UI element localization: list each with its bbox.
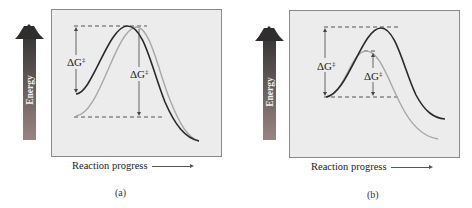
delta-g-label-b1: ΔG‡ — [317, 60, 336, 72]
caption-a: (a) — [115, 187, 126, 198]
progress-arrow-icon — [152, 166, 192, 167]
progress-arrow-icon — [391, 167, 431, 168]
x-axis-label-b: Reaction progress — [311, 161, 431, 172]
curve-light-a — [76, 27, 199, 141]
plot-b: ΔG‡ ΔG‡ — [236, 0, 472, 208]
caption-b: (b) — [367, 189, 379, 200]
delta-g-label-a1: ΔG‡ — [67, 56, 86, 68]
plot-a: ΔG‡ ΔG‡ — [0, 0, 236, 208]
delta-g-label-b2: ΔG‡ — [364, 70, 383, 82]
delta-g-label-a2: ΔG‡ — [130, 68, 149, 80]
x-axis-label-a: Reaction progress — [72, 160, 192, 171]
panel-a: Energy ΔG‡ ΔG‡ Reaction progress (a) — [0, 0, 236, 208]
curve-light-b — [326, 51, 438, 139]
panel-b: Energy ΔG‡ ΔG‡ Reaction progress (b) — [236, 0, 472, 208]
